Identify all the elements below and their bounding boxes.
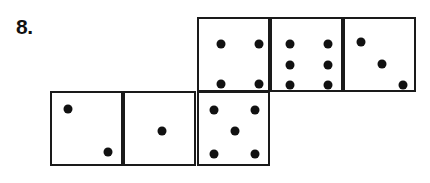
pip-dot <box>64 105 73 114</box>
problem-number: 8. <box>16 15 33 39</box>
pip-dot <box>286 40 295 49</box>
pip-dot <box>399 81 408 90</box>
die-face-top-2 <box>270 17 343 92</box>
pip-dot <box>255 40 264 49</box>
pip-dot <box>357 38 366 47</box>
die-face-top-1 <box>197 17 270 92</box>
pip-dot <box>286 61 295 70</box>
pip-dot <box>251 150 260 159</box>
pip-dot <box>324 61 333 70</box>
pip-dot <box>217 40 226 49</box>
pip-dot <box>210 150 219 159</box>
pip-dot <box>324 40 333 49</box>
pip-dot <box>104 148 113 157</box>
pip-dot <box>286 81 295 90</box>
pip-dot <box>217 80 226 89</box>
pip-dot <box>158 127 167 136</box>
pip-dot <box>378 60 387 69</box>
die-face-bottom-1 <box>50 91 123 166</box>
die-face-bottom-3 <box>197 91 270 166</box>
pip-dot <box>231 127 240 136</box>
die-face-top-3 <box>343 17 416 92</box>
die-face-bottom-2 <box>123 91 196 166</box>
pip-dot <box>210 106 219 115</box>
pip-dot <box>324 81 333 90</box>
pip-dot <box>255 80 264 89</box>
pip-dot <box>251 106 260 115</box>
